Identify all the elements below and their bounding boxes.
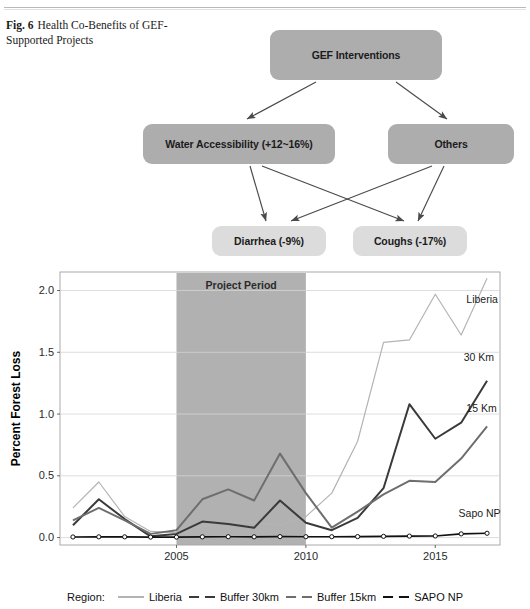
edge-gef-to-water <box>247 82 316 119</box>
series-marker-3 <box>433 534 437 538</box>
page-top-rule <box>4 7 526 8</box>
edge-gef-to-others <box>396 82 447 119</box>
edge-others-to-diarrhea <box>291 166 432 221</box>
legend-key-buffer-15km <box>286 592 312 602</box>
flow-node-coughs[interactable]: Coughs (-17%) <box>353 226 467 256</box>
edge-water-to-diarrhea <box>250 166 266 221</box>
legend-item-buffer-30km[interactable]: Buffer 30km <box>189 591 279 603</box>
legend-item-buffer-15km[interactable]: Buffer 15km <box>286 591 376 603</box>
legend-label-buffer-15km: Buffer 15km <box>317 591 376 603</box>
ytick-label: 0.0 <box>39 531 54 543</box>
ytick-label: 2.0 <box>39 284 54 296</box>
forest-loss-chart: Project Period0.00.51.01.52.020052010201… <box>0 262 530 609</box>
series-marker-3 <box>97 535 101 539</box>
xtick-label: 2010 <box>294 550 318 562</box>
series-marker-3 <box>356 535 360 539</box>
flow-node-water-accessibility[interactable]: Water Accessibility (+12~16%) <box>143 124 335 164</box>
legend-key-liberia <box>118 592 144 602</box>
series-marker-3 <box>71 535 75 539</box>
page-top-rule-shadow <box>4 9 526 10</box>
series-annotation-0: Liberia <box>466 293 498 305</box>
flowchart: GEF Interventions Water Accessibility (+… <box>0 14 530 264</box>
series-marker-3 <box>278 535 282 539</box>
legend-label-buffer-30km: Buffer 30km <box>220 591 279 603</box>
chart-legend: Region: Liberia Buffer 30km Buffer 15km … <box>0 591 530 603</box>
series-marker-3 <box>485 531 489 535</box>
chart-canvas: Project Period0.00.51.01.52.020052010201… <box>0 262 530 562</box>
edge-others-to-coughs <box>418 166 444 221</box>
legend-title: Region: <box>67 591 105 603</box>
series-marker-3 <box>381 534 385 538</box>
legend-label-liberia: Liberia <box>149 591 182 603</box>
series-marker-3 <box>407 534 411 538</box>
ytick-label: 0.5 <box>39 469 54 481</box>
series-annotation-3: Sapo NP <box>459 507 501 519</box>
project-period-label: Project Period <box>206 279 277 291</box>
legend-item-liberia[interactable]: Liberia <box>118 591 182 603</box>
series-marker-3 <box>174 535 178 539</box>
flow-node-others[interactable]: Others <box>388 124 514 164</box>
series-marker-3 <box>148 535 152 539</box>
series-marker-3 <box>459 532 463 536</box>
y-axis-title: Percent Forest Loss <box>9 350 23 466</box>
series-marker-3 <box>123 535 127 539</box>
legend-key-buffer-30km <box>189 592 215 602</box>
legend-label-sapo-np: SAPO NP <box>414 591 463 603</box>
edge-water-to-coughs <box>262 166 404 221</box>
legend-item-sapo-np[interactable]: SAPO NP <box>383 591 463 603</box>
xtick-label: 2015 <box>423 550 447 562</box>
series-marker-3 <box>252 535 256 539</box>
series-marker-3 <box>200 535 204 539</box>
ytick-label: 1.5 <box>39 346 54 358</box>
series-marker-3 <box>304 535 308 539</box>
series-annotation-1: 30 Km <box>464 351 495 363</box>
series-marker-3 <box>226 535 230 539</box>
series-annotation-2: 15 Km <box>466 402 497 414</box>
legend-key-sapo-np <box>383 592 409 602</box>
flow-node-diarrhea[interactable]: Diarrhea (-9%) <box>212 226 326 256</box>
series-marker-3 <box>330 535 334 539</box>
ytick-label: 1.0 <box>39 408 54 420</box>
project-period-band <box>176 273 305 545</box>
xtick-label: 2005 <box>164 550 188 562</box>
flow-node-gef-interventions[interactable]: GEF Interventions <box>270 30 442 80</box>
